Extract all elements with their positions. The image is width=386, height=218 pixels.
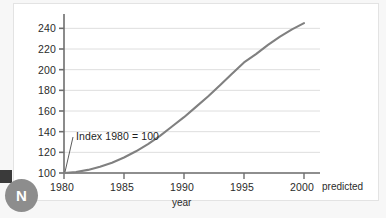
bookmark-tab-icon — [0, 170, 12, 183]
n-logo-letter: N — [16, 188, 27, 203]
x-axis-title: year — [172, 198, 191, 208]
x-axis-tick-label: 1985 — [110, 182, 134, 193]
predicted-note-label: predicted — [322, 182, 363, 192]
y-axis-tick-label: 160 — [22, 106, 56, 117]
y-axis-tick-label: 180 — [22, 85, 56, 96]
index-curve — [64, 23, 304, 173]
y-axis-tick-label: 200 — [22, 65, 56, 76]
y-axis-tick-label: 220 — [22, 44, 56, 55]
y-axis-tick-label: 120 — [22, 147, 56, 158]
x-axis-tick-label: 1980 — [50, 182, 74, 193]
x-axis-tick-label: 1995 — [230, 182, 254, 193]
chart-screenshot: 100120140160180200220240 198019851990199… — [0, 0, 386, 218]
index-baseline-annotation: Index 1980 = 100 — [76, 131, 159, 142]
annotation-leader-line — [65, 137, 73, 172]
y-axis-tick-label: 100 — [22, 168, 56, 179]
y-axis-tick-label: 240 — [22, 23, 56, 34]
x-axis-tick-label: 1990 — [170, 182, 194, 193]
n-logo-badge[interactable]: N — [5, 179, 38, 212]
y-axis-tick-label: 140 — [22, 127, 56, 138]
x-axis-tick-label: 2000 — [290, 182, 314, 193]
